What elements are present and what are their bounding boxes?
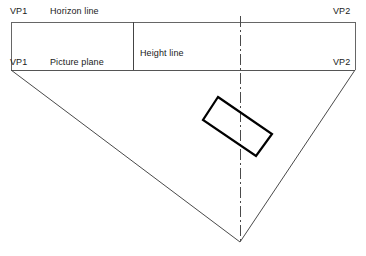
label-horizon-line: Horizon line bbox=[50, 6, 99, 17]
diagram-vector-layer bbox=[0, 0, 366, 256]
label-vp2-horizon: VP2 bbox=[333, 6, 350, 17]
label-vp1-horizon: VP1 bbox=[10, 6, 27, 17]
label-vp2-picture-plane: VP2 bbox=[333, 57, 350, 68]
label-picture-plane: Picture plane bbox=[50, 57, 104, 68]
label-height-line: Height line bbox=[140, 48, 184, 59]
perspective-diagram-canvas: VP1 Horizon line VP2 VP1 Picture plane V… bbox=[0, 0, 366, 256]
plan-rectangle bbox=[203, 97, 272, 156]
label-vp1-picture-plane: VP1 bbox=[10, 57, 27, 68]
left-sight-line bbox=[11, 70, 240, 242]
